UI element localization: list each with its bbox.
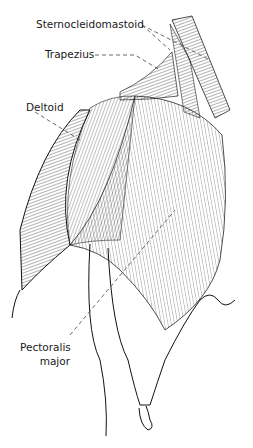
label-pectoralis: Pectoralis [20,341,70,354]
muscle-illustration [0,0,253,448]
label-deltoid: Deltoid [26,101,64,114]
label-trapezius: Trapezius [45,48,94,61]
anatomy-figure: Sternocleidomastoid Trapezius Deltoid Pe… [0,0,253,448]
label-sternocleidomastoid: Sternocleidomastoid [36,18,144,31]
label-major: major [20,355,70,368]
trapezius-muscle [120,52,178,100]
neck-muscles [170,16,230,118]
